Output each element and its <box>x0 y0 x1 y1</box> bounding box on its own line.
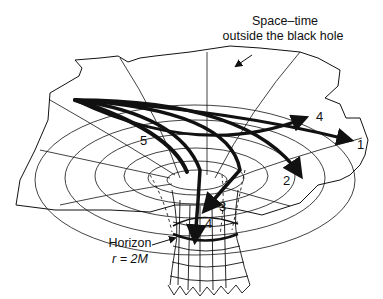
ray-4-inner <box>75 100 200 240</box>
spacetime-pointer <box>236 55 252 66</box>
ray-label-1: 1 <box>357 138 364 151</box>
ray-label-4-inner: 4 <box>205 217 212 230</box>
black-hole-embedding-diagram <box>0 0 383 299</box>
sheet-radial-spokes <box>40 52 362 206</box>
ray-label-4-outer: 4 <box>316 110 323 123</box>
ray-label-5: 5 <box>140 134 147 147</box>
horizon-label-line1: Horizon <box>100 236 160 250</box>
ray-label-3: 3 <box>219 200 226 213</box>
ray-label-2: 2 <box>283 174 290 187</box>
spacetime-label-line1: Space–time <box>230 14 340 28</box>
horizon-ring <box>173 234 238 241</box>
spacetime-label-line2: outside the black hole <box>198 29 368 43</box>
horizon-label-line2: r = 2M <box>100 252 160 266</box>
